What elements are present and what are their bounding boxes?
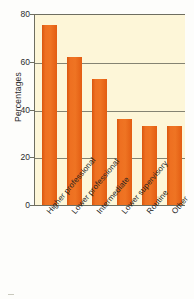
gridline-60 bbox=[35, 63, 185, 64]
plot-area bbox=[34, 14, 185, 206]
y-tick-label-20: 20 bbox=[8, 152, 30, 162]
y-tick-label-0: 0 bbox=[8, 200, 30, 210]
y-tick-label-80: 80 bbox=[8, 9, 30, 19]
y-tick-mark-80 bbox=[30, 14, 34, 15]
page-rule bbox=[8, 294, 14, 295]
bar bbox=[42, 25, 57, 206]
y-tick-mark-60 bbox=[30, 62, 34, 63]
gridline-40 bbox=[35, 111, 185, 112]
y-tick-mark-20 bbox=[30, 157, 34, 158]
bar-chart-figure: Percentages 020406080 Higher professiona… bbox=[0, 0, 194, 299]
y-tick-mark-0 bbox=[30, 205, 34, 206]
y-tick-mark-40 bbox=[30, 110, 34, 111]
y-tick-label-40: 40 bbox=[8, 105, 30, 115]
y-tick-label-60: 60 bbox=[8, 57, 30, 67]
